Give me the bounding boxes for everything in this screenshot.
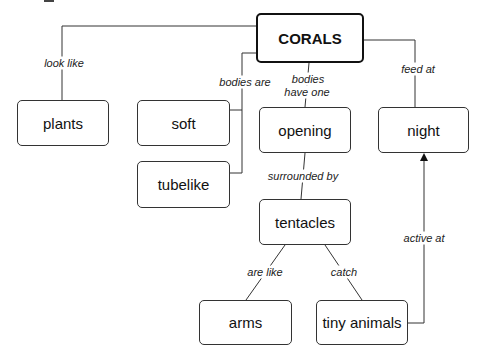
edge-label-have-one: have one [284, 86, 329, 99]
node-label: tubelike [158, 176, 210, 193]
node-label: soft [171, 115, 195, 132]
edge-label-feed-at: feed at [401, 63, 435, 76]
node-tiny-animals[interactable]: tiny animals [316, 300, 408, 345]
node-corals[interactable]: CORALS [256, 13, 364, 63]
node-opening[interactable]: opening [259, 107, 351, 153]
node-soft[interactable]: soft [137, 100, 230, 146]
arrowhead-icon [420, 153, 428, 161]
edge-label-look-like: look like [44, 57, 84, 70]
node-label: opening [278, 122, 331, 139]
node-label: plants [43, 115, 83, 132]
concept-map: CORALS plants soft tubelike opening nigh… [0, 0, 483, 359]
edge-look-like [62, 26, 256, 100]
node-label: night [407, 122, 440, 139]
edge-label-are-like: are like [247, 266, 282, 279]
node-label: tiny animals [322, 314, 401, 331]
node-tubelike[interactable]: tubelike [137, 161, 230, 208]
edge-label-bodies: bodies [292, 73, 324, 86]
node-label: arms [229, 314, 262, 331]
edge-label-surrounded-by: surrounded by [268, 170, 338, 183]
edge-label-bodies-are: bodies are [219, 76, 270, 89]
node-label: tentacles [275, 214, 335, 231]
node-night[interactable]: night [378, 107, 469, 153]
node-plants[interactable]: plants [17, 100, 109, 146]
node-label: CORALS [278, 30, 341, 47]
node-tentacles[interactable]: tentacles [259, 199, 351, 245]
node-arms[interactable]: arms [199, 300, 292, 345]
edge-bodies-are [230, 53, 256, 173]
edge-label-active-at: active at [404, 232, 445, 245]
edge-label-catch: catch [331, 266, 357, 279]
